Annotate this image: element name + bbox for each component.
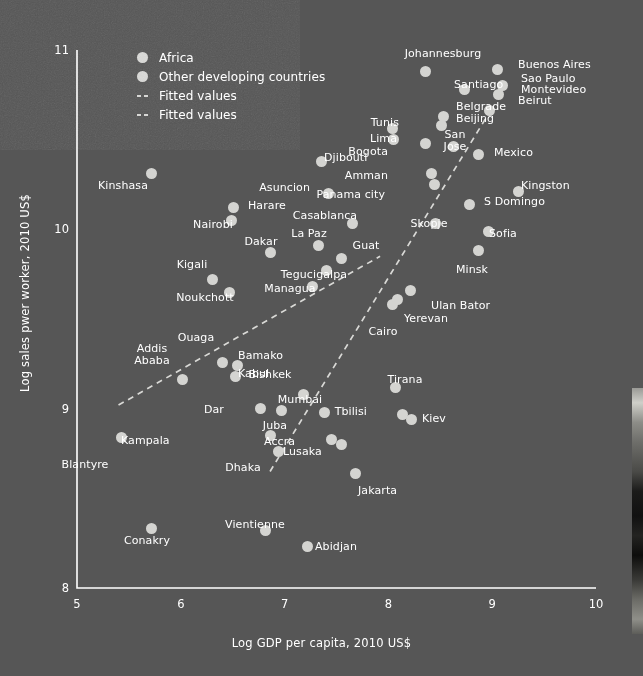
point-label: Asuncion [190,182,310,194]
point-label: La Paz [249,228,369,240]
scatter-point[interactable] [265,247,276,258]
point-label: Bamako [238,350,283,362]
legend-marker-circle-icon [137,71,148,82]
point-label: Lima [277,133,397,145]
point-label: Dhaka [183,462,303,474]
point-label: S Domingo [484,196,545,208]
scatter-point[interactable] [429,179,440,190]
scatter-point[interactable] [405,285,416,296]
point-label: Blantyre [25,459,145,471]
point-label: Guat [306,240,426,252]
point-label: Tbilisi [247,406,367,418]
point-label: Juba [215,420,335,432]
point-label: Kiev [422,413,446,425]
point-label: Kampala [121,435,170,447]
point-label: Kigali [132,259,252,271]
scatter-point[interactable] [217,357,228,368]
point-label: Beijing [456,113,494,125]
scatter-point[interactable] [464,199,475,210]
legend-label: Fitted values [159,108,237,122]
legend-marker-dashed-line-icon [137,109,148,120]
legend-label: Africa [159,51,194,65]
point-label: Buenos Aires [518,59,591,71]
chart-legend: Africa Other developing countries Fitted… [137,48,325,124]
point-label: Santiago [454,79,503,91]
point-label: Beirut [518,95,552,107]
axis-lines [77,50,596,588]
legend-marker-circle-icon [137,52,148,63]
point-label: Addis Ababa [92,343,212,366]
point-label: Tegucigalpa [254,269,374,281]
scatter-point[interactable] [336,253,347,264]
legend-label: Fitted values [159,89,237,103]
point-label: Cairo [323,326,443,338]
photo-fragment [632,388,643,634]
legend-item-fitted-values-1[interactable]: Fitted values [137,86,325,105]
point-label: Bishkek [210,369,330,381]
point-label: Belgrade [456,101,506,113]
point-label: Skopje [369,218,489,230]
point-label: Lusaka [283,446,322,458]
point-label: Vientienne [195,519,315,531]
point-label: Jakarta [358,485,397,497]
point-label: Tirana [345,374,465,386]
scatter-point[interactable] [326,434,337,445]
scatter-point[interactable] [392,294,403,305]
point-label: Amman [268,170,388,182]
point-label: Casablanca [265,210,385,222]
scatter-point[interactable] [406,414,417,425]
point-label: Conakry [87,535,207,547]
point-label: Abidjan [315,541,357,553]
legend-item-africa[interactable]: Africa [137,48,325,67]
point-label: Djibouti [324,152,367,164]
point-label: Managua [230,283,350,295]
point-label: Yerevan [404,313,448,325]
point-label: Ulan Bator [431,300,490,312]
point-label: Dar [104,404,224,416]
scatter-point[interactable] [350,468,361,479]
point-label: Mumbai [240,394,360,406]
point-label: Sofia [489,228,517,240]
legend-marker-dashed-line-icon [137,90,148,101]
point-label: Kinshasa [63,180,183,192]
legend-label: Other developing countries [159,70,325,84]
legend-item-fitted-values-2[interactable]: Fitted values [137,105,325,124]
point-label: Kingston [521,180,570,192]
point-label: Minsk [412,264,532,276]
point-label: Mexico [494,147,533,159]
point-label: Johannesburg [383,48,503,60]
legend-item-other-developing-countries[interactable]: Other developing countries [137,67,325,86]
